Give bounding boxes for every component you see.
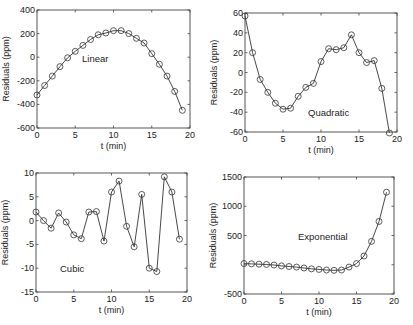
model-annotation: Cubic xyxy=(60,263,85,274)
x-tick-label: 5 xyxy=(280,134,285,144)
x-tick-label: 10 xyxy=(106,294,116,304)
y-tick-label: 20 xyxy=(233,48,243,58)
plot-linear: 05101520-600-400-2000200400t (min)Residu… xyxy=(1,5,195,151)
x-tick-label: 0 xyxy=(241,296,246,306)
plot-cubic: 05101520-15-10-50510t (min)Residuals (pp… xyxy=(0,168,192,315)
x-tick-label: 0 xyxy=(242,134,247,144)
plot-frame xyxy=(36,173,187,292)
y-tick-label: -400 xyxy=(17,99,35,109)
y-tick-label: 10 xyxy=(24,168,34,178)
x-tick-label: 0 xyxy=(34,130,39,140)
residuals-figure: 05101520-600-400-2000200400t (min)Residu… xyxy=(0,0,413,325)
x-tick-label: 5 xyxy=(73,130,78,140)
y-tick-label: 60 xyxy=(233,8,243,18)
model-annotation: Linear xyxy=(82,53,108,64)
y-tick-label: -500 xyxy=(224,289,242,299)
x-tick-label: 10 xyxy=(316,134,326,144)
y-tick-label: -10 xyxy=(21,263,34,273)
data-line xyxy=(37,31,182,111)
y-tick-label: -5 xyxy=(26,239,34,249)
y-tick-label: -60 xyxy=(230,127,243,137)
x-axis-label: t (min) xyxy=(99,305,125,315)
plot-exponential: 05101520-50050010001500t (min)Residuals … xyxy=(208,172,399,317)
plot-quadratic: 05101520-60-40-200204060t (min)Residuals… xyxy=(209,8,402,155)
x-axis-label: t (min) xyxy=(308,145,334,155)
y-axis-label: Residuals (ppm) xyxy=(209,40,219,106)
x-tick-label: 10 xyxy=(108,130,118,140)
y-tick-label: 0 xyxy=(30,52,35,62)
y-tick-label: 0 xyxy=(238,68,243,78)
y-axis-label: Residuals (ppm) xyxy=(208,203,218,269)
x-tick-label: 0 xyxy=(33,294,38,304)
x-tick-label: 5 xyxy=(71,294,76,304)
y-tick-label: 500 xyxy=(227,231,242,241)
y-tick-label: 200 xyxy=(20,29,35,39)
y-tick-label: 0 xyxy=(29,216,34,226)
data-line xyxy=(36,177,179,272)
y-tick-label: 40 xyxy=(233,28,243,38)
x-tick-label: 5 xyxy=(279,296,284,306)
x-axis-label: t (min) xyxy=(101,141,127,151)
y-tick-label: -20 xyxy=(230,87,243,97)
x-axis-label: t (min) xyxy=(306,307,332,317)
x-tick-label: 20 xyxy=(185,130,195,140)
y-tick-label: -600 xyxy=(17,123,35,133)
y-tick-label: 400 xyxy=(20,5,35,15)
y-tick-label: -15 xyxy=(21,287,34,297)
y-axis-label: Residuals (ppm) xyxy=(0,200,10,266)
x-tick-label: 15 xyxy=(147,130,157,140)
x-tick-label: 15 xyxy=(351,296,361,306)
y-tick-label: 1500 xyxy=(222,172,242,182)
data-point-marker xyxy=(179,107,185,113)
x-tick-label: 20 xyxy=(389,296,399,306)
x-tick-label: 15 xyxy=(354,134,364,144)
x-tick-label: 20 xyxy=(392,134,402,144)
y-tick-label: 1000 xyxy=(222,201,242,211)
x-tick-label: 15 xyxy=(144,294,154,304)
y-tick-label: -40 xyxy=(230,107,243,117)
y-axis-label: Residuals (ppm) xyxy=(1,36,11,102)
y-tick-label: -200 xyxy=(17,76,35,86)
y-tick-label: 5 xyxy=(29,192,34,202)
model-annotation: Quadratic xyxy=(308,107,349,118)
x-tick-label: 20 xyxy=(182,294,192,304)
x-tick-label: 10 xyxy=(314,296,324,306)
model-annotation: Exponential xyxy=(298,231,348,242)
